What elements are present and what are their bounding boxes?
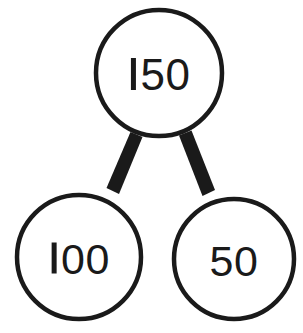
node-label-part-left: 00 bbox=[48, 235, 110, 284]
node-label-total: 50 bbox=[127, 50, 190, 100]
digit-one-glyph bbox=[48, 243, 59, 274]
connector-total-to-right bbox=[179, 131, 215, 197]
node-label-part-left-text: 00 bbox=[61, 235, 110, 283]
digit-one-glyph bbox=[127, 58, 138, 90]
node-label-total-text: 50 bbox=[141, 50, 191, 99]
node-label-part-right: 50 bbox=[210, 237, 259, 286]
node-label-part-right-text: 50 bbox=[210, 237, 259, 285]
connector-total-to-left bbox=[107, 132, 143, 194]
number-bond-diagram: 50 00 50 bbox=[0, 0, 303, 333]
